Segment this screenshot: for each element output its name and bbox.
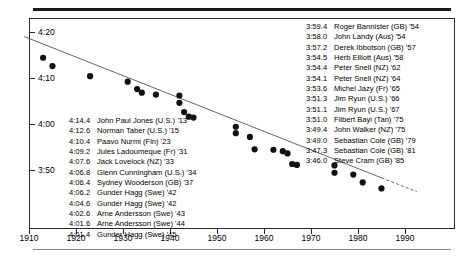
record-athlete: Gunder Hagg (Swe) '42: [97, 188, 177, 198]
data-point: 3:53.6 Michel Jazy (Fr) '65: [284, 150, 290, 156]
x-tick-label: 1950: [197, 234, 237, 243]
record-time: 4:09.2: [69, 147, 97, 157]
record-athlete: Peter Snell (NZ) '64: [334, 74, 400, 84]
record-athlete: John Paul Jones (U.S.) '13: [97, 116, 187, 126]
record-entry: 4:06.2 Gunder Hagg (Swe) '42: [69, 188, 196, 198]
data-point: 3:54.4 Peter Snell (NZ) '62: [270, 147, 276, 153]
record-entry: 4:01.4 Gunder Hagg (Swe) '45: [69, 230, 196, 240]
record-entry: 4:14.4 John Paul Jones (U.S.) '13: [69, 116, 196, 126]
record-time: 4:06.4: [69, 178, 97, 188]
record-athlete: Steve Cram (GB) '85: [334, 156, 404, 166]
record-athlete: Michel Jazy (Fr) '65: [334, 84, 400, 94]
record-time: 3:46.0: [306, 156, 334, 166]
record-time: 3:51.3: [306, 94, 334, 104]
record-athlete: Sebastian Cole (GB) '79: [334, 136, 416, 146]
record-entry: 3:59.4 Roger Bannister (GB) '54: [306, 22, 419, 32]
data-point: 3:49.4 John Walker (NZ) '75: [331, 170, 337, 176]
record-athlete: Peter Snell (NZ) '62: [334, 63, 400, 73]
record-entry: 3:57.2 Derek Ibbotson (GB) '57: [306, 43, 419, 53]
record-entry: 3:54.5 Herb Elliott (Aus) '58: [306, 53, 419, 63]
data-point: 4:12.6 Norman Taber (U.S.) '15: [49, 63, 55, 69]
data-point: 3:49.0 Sebastian Cole (GB) '79: [350, 172, 356, 178]
record-time: 3:53.6: [306, 84, 334, 94]
record-time: 4:14.4: [69, 116, 97, 126]
record-time: 4:02.6: [69, 209, 97, 219]
x-tick-label: 1980: [338, 234, 378, 243]
record-time: 4:01.6: [69, 219, 97, 229]
record-entry: 4:07.6 Jack Lovelock (NZ) '33: [69, 157, 196, 167]
data-point: 4:04.6 Gunder Hagg (Swe) '42: [176, 100, 182, 106]
data-point: 3:47.3 Sebastian Cole (GB) '81: [360, 179, 366, 185]
bottom-rule: [33, 249, 451, 250]
record-time: 4:12.6: [69, 126, 97, 136]
record-time: 4:10.4: [69, 137, 97, 147]
record-entry: 4:04.6 Gunder Hagg (Swe) '42: [69, 199, 196, 209]
record-athlete: Roger Bannister (GB) '54: [334, 22, 419, 32]
data-point: 3:51.1 Jim Ryun (U.S.) '67: [294, 162, 300, 168]
x-tick-label: 1910: [9, 234, 49, 243]
record-entry: 3:47.3 Sebastian Cole (GB) '81: [306, 146, 419, 156]
record-time: 3:54.1: [306, 74, 334, 84]
record-athlete: Arne Andersson (Swe) '43: [97, 209, 185, 219]
record-athlete: Glenn Cunningham (U.S.) '34: [97, 168, 196, 178]
record-entry: 3:58.0 John Landy (Aus) '54: [306, 32, 419, 42]
record-entry: 3:53.6 Michel Jazy (Fr) '65: [306, 84, 419, 94]
record-athlete: Jules Ladoumeque (Fr) '31: [97, 147, 188, 157]
record-time: 3:57.2: [306, 43, 334, 53]
record-time: 4:06.8: [69, 168, 97, 178]
x-tick-label: 1990: [385, 234, 425, 243]
record-entry: 4:06.8 Glenn Cunningham (U.S.) '34: [69, 168, 196, 178]
record-athlete: Herb Elliott (Aus) '58: [334, 53, 403, 63]
record-entry: 3:54.1 Peter Snell (NZ) '64: [306, 74, 419, 84]
x-tick-label: 1970: [291, 234, 331, 243]
data-point: 4:06.8 Glenn Cunningham (U.S.) '34: [139, 90, 145, 96]
record-athlete: Sydney Wooderson (GB) '37: [97, 178, 193, 188]
record-entry: 3:46.0 Steve Cram (GB) '85: [306, 156, 419, 166]
record-entry: 3:49.0 Sebastian Cole (GB) '79: [306, 136, 419, 146]
record-time: 3:58.0: [306, 32, 334, 42]
y-tick-label: 4:10: [38, 74, 55, 83]
trend-line-dashed: [382, 178, 417, 192]
data-point: 4:09.2 Jules Ladoumeque (Fr) '31: [125, 79, 131, 85]
record-time: 3:54.5: [306, 53, 334, 63]
record-time: 3:51.1: [306, 105, 334, 115]
data-point: 4:14.4 John Paul Jones (U.S.) '13: [40, 55, 46, 61]
record-time: 3:59.4: [306, 22, 334, 32]
y-tick-label: 4:20: [38, 28, 55, 37]
y-tick-mark: [29, 170, 35, 171]
figure-root: 4:14.4 John Paul Jones (U.S.) '134:12.6 …: [0, 0, 475, 257]
data-point: 3:59.4 Roger Bannister (GB) '54: [233, 124, 239, 130]
record-time: 3:49.4: [306, 125, 334, 135]
record-time: 3:47.3: [306, 146, 334, 156]
record-entry: 4:10.4 Paavo Nurmi (Fin) '23: [69, 137, 196, 147]
top-rule: [33, 8, 451, 11]
y-tick-mark: [29, 32, 35, 33]
record-entry: 4:02.6 Arne Andersson (Swe) '43: [69, 209, 196, 219]
record-entry: 3:51.0 Filbert Bayi (Tan) '75: [306, 115, 419, 125]
record-entry: 4:01.6 Arne Andersson (Swe) '44: [69, 219, 196, 229]
record-time: 3:51.0: [306, 115, 334, 125]
records-list-left: 4:14.4 John Paul Jones (U.S.) '134:12.6 …: [69, 116, 196, 240]
record-athlete: Jim Ryun (U.S.) '66: [334, 94, 400, 104]
data-point: 4:06.4 Sydney Wooderson (GB) '37: [153, 91, 159, 97]
data-point: 3:58.0 John Landy (Aus) '54: [233, 130, 239, 136]
record-time: 4:06.2: [69, 188, 97, 198]
record-athlete: John Walker (NZ) '75: [334, 125, 405, 135]
record-time: 3:49.0: [306, 136, 334, 146]
records-list-right: 3:59.4 Roger Bannister (GB) '543:58.0 Jo…: [306, 22, 419, 167]
y-tick-label: 4:00: [38, 120, 55, 129]
record-entry: 4:12.6 Norman Taber (U.S.) '15: [69, 126, 196, 136]
record-entry: 4:09.2 Jules Ladoumeque (Fr) '31: [69, 147, 196, 157]
data-point: 3:57.2 Derek Ibbotson (GB) '57: [247, 134, 253, 140]
y-tick-mark: [29, 124, 35, 125]
record-time: 4:07.6: [69, 157, 97, 167]
record-time: 4:01.4: [69, 230, 97, 240]
record-entry: 3:49.4 John Walker (NZ) '75: [306, 125, 419, 135]
record-athlete: Arne Andersson (Swe) '44: [97, 219, 185, 229]
record-athlete: Derek Ibbotson (GB) '57: [334, 43, 416, 53]
record-time: 3:54.4: [306, 63, 334, 73]
record-athlete: John Landy (Aus) '54: [334, 32, 406, 42]
data-point: 3:46.0 Steve Cram (GB) '85: [378, 185, 384, 191]
y-tick-label: 3:50: [38, 166, 55, 175]
record-entry: 3:51.3 Jim Ryun (U.S.) '66: [306, 94, 419, 104]
